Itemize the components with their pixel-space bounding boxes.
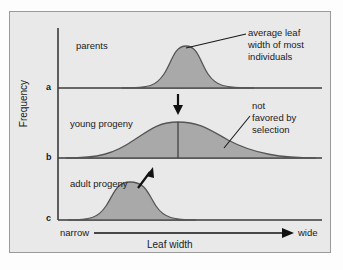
panel-title-young-progeny: young progeny	[70, 118, 133, 130]
annotation-average-leaf-width-line1: average leaf	[248, 27, 300, 39]
leader-line-not-favored	[224, 116, 250, 148]
annotation-not-favored-line2: favored by	[252, 112, 296, 124]
down-arrow-icon	[173, 94, 183, 115]
panel-tick-b: b	[46, 152, 52, 164]
panel-tick-c: c	[46, 213, 51, 225]
annotation-not-favored-line3: selection	[252, 124, 290, 136]
up-right-arrow-icon	[138, 167, 154, 188]
curve-parents	[122, 46, 254, 88]
x-axis-arrow	[94, 228, 294, 238]
panel-title-parents: parents	[76, 40, 108, 52]
y-axis-label: Frequency	[18, 74, 29, 134]
panel-tick-a: a	[46, 82, 51, 94]
x-axis-min-label: narrow	[60, 227, 89, 239]
leader-line-average-leaf-width	[186, 34, 246, 48]
annotation-average-leaf-width-line2: width of most	[248, 39, 304, 51]
figure-root: Frequency a b c parents young progeny ad…	[0, 0, 343, 270]
annotation-average-leaf-width-line3: individuals	[248, 51, 292, 63]
figure-panel: Frequency a b c parents young progeny ad…	[9, 11, 331, 253]
x-axis-max-label: wide	[298, 227, 318, 239]
annotation-not-favored-line1: not	[252, 100, 265, 112]
x-axis-label: Leaf width	[147, 239, 193, 251]
panel-title-adult-progeny: adult progeny	[70, 178, 128, 190]
